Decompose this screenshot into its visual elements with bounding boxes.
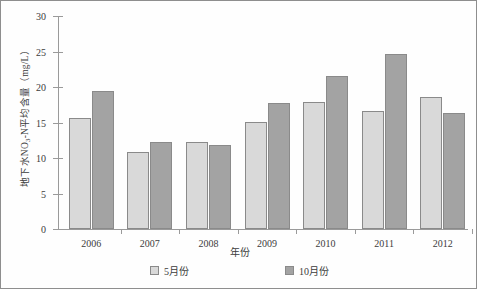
x-tick-2010	[355, 229, 356, 234]
x-axis-line	[58, 229, 468, 230]
y-tick-30: 30	[53, 16, 58, 17]
y-axis-title: 地下水NO3-N平均含量（mg/L）	[17, 21, 31, 211]
x-tick-2009	[296, 229, 297, 234]
y-tick-5: 5	[53, 194, 58, 195]
y-tick-10: 10	[53, 158, 58, 159]
y-tick-label-5: 5	[41, 188, 46, 199]
y-tick-inner-15	[59, 123, 63, 124]
y-axis-title-prefix: 地下水NO	[20, 142, 30, 187]
y-tick-inner-20	[59, 87, 63, 88]
y-axis-title-suffix: -N平均含量（mg/L）	[20, 45, 30, 138]
bar-2008-may	[186, 142, 208, 229]
bar-2006-oct	[92, 91, 114, 229]
y-tick-15: 15	[53, 123, 58, 124]
y-tick-label-25: 25	[36, 46, 46, 57]
y-tick-20: 20	[53, 87, 58, 88]
legend-swatch-icon-oct	[285, 266, 294, 275]
x-tick-2008	[238, 229, 239, 234]
y-tick-inner-5	[59, 194, 63, 195]
legend-swatch-icon-may	[150, 266, 159, 275]
legend-label-oct: 10月份	[299, 263, 329, 278]
x-axis-title: 年份	[1, 244, 477, 259]
bar-2010-may	[303, 102, 325, 229]
x-tick-2007	[179, 229, 180, 234]
chart-legend: 5月份 10月份	[1, 263, 477, 278]
y-tick-inner-30	[59, 16, 63, 17]
plot-area: 051015202530 200620072008200920102011201…	[58, 16, 468, 230]
y-tick-0: 0	[53, 229, 58, 230]
bar-2006-may	[69, 118, 91, 229]
y-tick-25: 25	[53, 52, 58, 53]
legend-item-may: 5月份	[150, 263, 189, 278]
bar-2009-oct	[268, 103, 290, 229]
x-tick-2006	[121, 229, 122, 234]
y-tick-label-15: 15	[36, 117, 46, 128]
bar-2012-oct	[443, 113, 465, 229]
y-tick-inner-25	[59, 52, 63, 53]
bar-2010-oct	[326, 76, 348, 229]
legend-item-oct: 10月份	[285, 263, 329, 278]
legend-label-may: 5月份	[164, 263, 189, 278]
bar-2007-may	[127, 152, 149, 229]
bar-2011-may	[362, 111, 384, 229]
x-tick-2011	[413, 229, 414, 234]
y-axis-title-subscript: 3	[24, 138, 32, 142]
x-tick-2012	[472, 229, 473, 234]
y-tick-inner-10	[59, 158, 63, 159]
bar-2011-oct	[385, 54, 407, 229]
bar-2007-oct	[150, 142, 172, 229]
bar-2008-oct	[209, 145, 231, 229]
y-tick-label-30: 30	[36, 11, 46, 22]
chart-figure: 地下水NO3-N平均含量（mg/L） 051015202530 20062007…	[0, 0, 477, 289]
bar-2012-may	[420, 97, 442, 229]
y-tick-label-0: 0	[41, 224, 46, 235]
bar-2009-may	[245, 122, 267, 229]
y-tick-label-20: 20	[36, 82, 46, 93]
y-tick-label-10: 10	[36, 153, 46, 164]
